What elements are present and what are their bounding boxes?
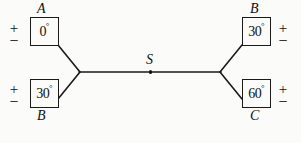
degree-symbol-top-right: °	[261, 21, 264, 31]
wire-top-left-to-left-junction	[58, 45, 80, 72]
minus-sign-top-right: −	[277, 35, 289, 46]
source-box-bottom-right[interactable]: 60°	[242, 79, 271, 108]
source-box-bottom-left[interactable]: 30°	[30, 79, 59, 108]
angle-number-bottom-right: 60	[248, 86, 261, 101]
source-label-bottom-right: C	[250, 108, 259, 124]
source-box-top-right[interactable]: 30°	[242, 17, 271, 46]
source-label-top-right: B	[250, 1, 259, 17]
circuit-diagram: A + − 0° + − 30° B B 30° + − 60° + − C S	[0, 0, 301, 143]
polarity-terminals-top-right: + −	[277, 23, 289, 45]
center-junction-dot	[149, 70, 152, 73]
wire-right-junction-to-top-right	[220, 45, 242, 72]
degree-symbol-bottom-left: °	[49, 83, 52, 93]
angle-number-top-right: 30	[248, 24, 261, 39]
degree-symbol-bottom-right: °	[261, 83, 264, 93]
source-box-top-left[interactable]: 0°	[30, 17, 59, 46]
angle-number-bottom-left: 30	[36, 86, 49, 101]
angle-value-bottom-left: 30°	[36, 85, 53, 101]
minus-sign-bottom-left: −	[8, 96, 20, 107]
angle-value-top-right: 30°	[248, 23, 265, 39]
polarity-terminals-top-left: + −	[8, 23, 20, 45]
source-label-top-left: A	[37, 1, 46, 17]
polarity-terminals-bottom-left: + −	[8, 84, 20, 106]
wire-right-junction-to-bottom-right	[220, 72, 242, 99]
source-label-bottom-left: B	[37, 108, 46, 124]
degree-symbol-top-left: °	[46, 21, 49, 31]
angle-value-bottom-right: 60°	[248, 85, 265, 101]
wire-bottom-left-to-left-junction	[58, 72, 80, 99]
minus-sign-top-left: −	[8, 35, 20, 46]
minus-sign-bottom-right: −	[277, 96, 289, 107]
polarity-terminals-bottom-right: + −	[277, 84, 289, 106]
angle-value-top-left: 0°	[39, 23, 49, 39]
center-node-label: S	[146, 52, 153, 68]
